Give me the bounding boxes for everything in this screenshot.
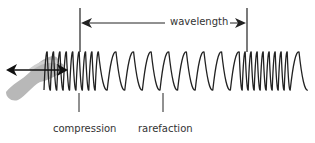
rarefaction-label: rarefaction xyxy=(138,123,193,134)
wave-diagram: wavelength compression rarefaction xyxy=(0,0,315,143)
wavelength-marker xyxy=(80,8,247,52)
diagram-graphics xyxy=(0,0,315,143)
compression-label: compression xyxy=(53,123,116,134)
spring xyxy=(44,52,308,90)
wavelength-label: wavelength xyxy=(168,16,230,27)
